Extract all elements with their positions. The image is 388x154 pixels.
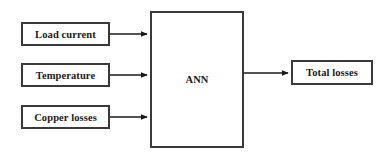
diagram-canvas: Load current Temperature Copper losses A…: [0, 0, 388, 154]
node-temperature[interactable]: Temperature: [21, 63, 110, 87]
node-ann-label: ANN: [185, 74, 208, 85]
node-temperature-label: Temperature: [36, 70, 95, 81]
node-total-losses[interactable]: Total losses: [291, 60, 373, 85]
node-load-current[interactable]: Load current: [21, 22, 110, 46]
node-ann[interactable]: ANN: [150, 11, 244, 148]
node-copper-losses-label: Copper losses: [34, 112, 97, 123]
node-load-current-label: Load current: [35, 29, 96, 40]
node-total-losses-label: Total losses: [306, 67, 358, 78]
node-copper-losses[interactable]: Copper losses: [21, 105, 110, 129]
